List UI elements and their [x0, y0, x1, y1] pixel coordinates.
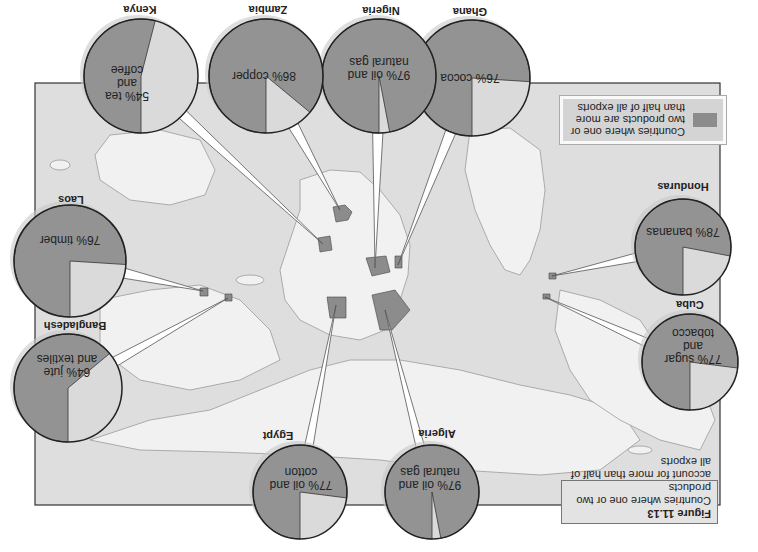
pie-value-text: 76% cocoa: [440, 71, 499, 84]
island: [50, 160, 70, 170]
country-label: Cuba: [676, 299, 704, 311]
country-label: Bangladesh: [44, 320, 106, 332]
country-bangladesh: [225, 294, 232, 301]
pie-value-text: 54% tea and coffee: [105, 63, 149, 102]
caption-line-2: account for more than half of all export…: [568, 455, 711, 481]
map-figure: Ghana76% cocoaNigeria97% oil and natural…: [0, 0, 758, 552]
island: [628, 446, 652, 454]
legend-box: Countries where one or two products are …: [560, 96, 726, 144]
country-label: Ghana: [453, 6, 487, 18]
legend-text: Countries where one or two products are …: [569, 102, 685, 138]
country-label: Nigeria: [362, 5, 399, 17]
pie-value-text: 97% oil and natural gas: [399, 465, 462, 491]
pie-value-text: 97% oil and natural gas: [348, 55, 411, 81]
caption-line-1: Countries where one or two products: [568, 481, 711, 507]
figure-number: Figure 11.13: [568, 507, 711, 520]
country-label: Zambia: [249, 4, 288, 16]
pie-value-text: 86% copper: [232, 69, 296, 82]
country-label: Egypt: [263, 430, 294, 442]
country-label: Algeria: [418, 428, 455, 440]
figure-caption: Figure 11.13 Countries where one or two …: [561, 480, 718, 524]
pie-value-text: 77% oil and cotton: [270, 465, 333, 491]
legend-swatch: [693, 113, 717, 127]
country-laos: [200, 288, 208, 296]
country-label: Kenya: [123, 4, 156, 16]
pie-value-text: 76% timber: [40, 233, 101, 246]
country-label: Laos: [58, 194, 84, 206]
pie-value-text: 78% bananas: [646, 225, 719, 238]
pie-value-text: 77% sugar and tobacco: [661, 326, 726, 365]
country-kenya: [318, 236, 332, 252]
country-label: Honduras: [657, 181, 708, 193]
pie-value-text: 64% jute and textiles: [37, 352, 98, 378]
island: [236, 275, 264, 285]
country-egypt: [327, 297, 346, 318]
